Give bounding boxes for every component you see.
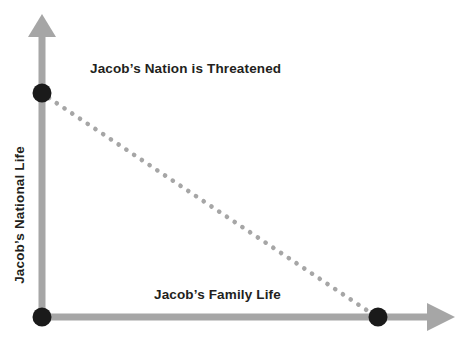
- annotation-nation-threatened: Jacob’s Nation is Threatened: [90, 62, 281, 76]
- y-axis-line: [39, 30, 46, 322]
- family-life-marker[interactable]: [369, 308, 388, 327]
- origin-marker[interactable]: [33, 308, 52, 327]
- national-life-marker[interactable]: [33, 84, 52, 103]
- chart-canvas: Jacob’s Nation is Threatened Jacob’s Fam…: [0, 0, 469, 347]
- y-axis-arrowhead-icon: [28, 14, 56, 37]
- tradeoff-dotted-line: [49, 98, 371, 313]
- x-axis-label: Jacob’s Family Life: [154, 288, 281, 302]
- y-axis: [28, 14, 56, 322]
- x-axis-arrowhead-icon: [427, 303, 455, 331]
- y-axis-label: Jacob’s National Life: [13, 146, 27, 284]
- x-axis: [40, 303, 455, 331]
